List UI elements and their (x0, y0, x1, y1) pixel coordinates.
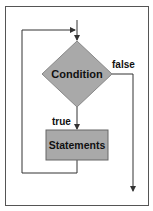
while-loop-flowchart: Condition false true Statements (0, 0, 153, 211)
condition-label: Condition (51, 68, 103, 80)
true-label: true (52, 116, 71, 127)
false-label: false (112, 59, 135, 70)
statements-label: Statements (49, 139, 106, 151)
